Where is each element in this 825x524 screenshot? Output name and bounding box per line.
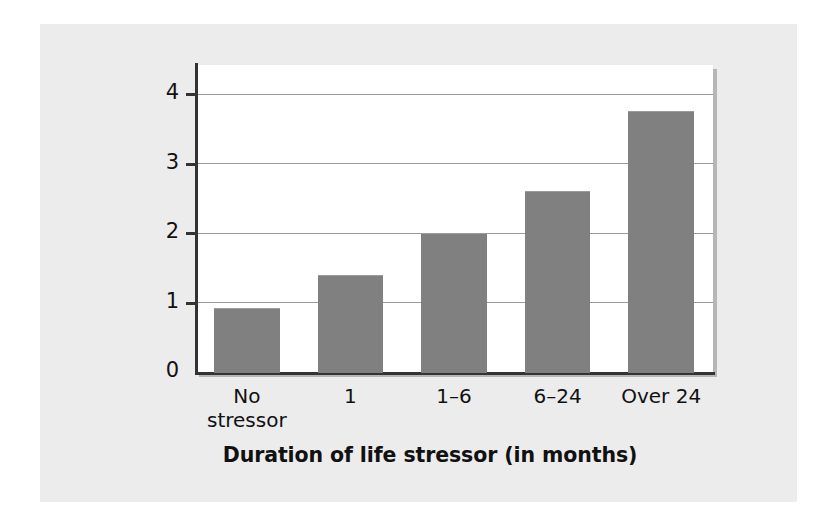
bar-1 (318, 275, 384, 373)
figure-root: 01234 Nostressor11–66–24Over 24 Relative… (0, 0, 825, 524)
x-tick-label-1: 1 (299, 385, 403, 409)
x-tick-label-2-line-0: 1–6 (402, 385, 506, 409)
y-tick-label-4: 4 (139, 80, 179, 104)
bar-3 (525, 191, 591, 373)
x-tick-label-0-line-0: No (195, 385, 299, 409)
x-tick-label-3: 6–24 (506, 385, 610, 409)
y-tick-label-2: 2 (139, 219, 179, 243)
x-tick-label-3-line-0: 6–24 (506, 385, 610, 409)
x-tick-label-0: Nostressor (195, 385, 299, 432)
x-axis-title: Duration of life stressor (in months) (150, 443, 710, 467)
y-axis-title: Relative risk of a cold (1 indicates nor… (0, 88, 5, 388)
bar-2 (421, 233, 487, 373)
y-tick-label-1: 1 (139, 289, 179, 313)
bar-0 (214, 308, 280, 373)
x-tick-label-4: Over 24 (609, 385, 713, 409)
x-tick-label-2: 1–6 (402, 385, 506, 409)
bar-4 (628, 111, 694, 373)
y-tick-label-3: 3 (139, 150, 179, 174)
y-tick-label-0: 0 (139, 358, 179, 382)
x-tick-label-0-line-1: stressor (195, 409, 299, 433)
x-tick-label-4-line-0: Over 24 (609, 385, 713, 409)
x-tick-label-1-line-0: 1 (299, 385, 403, 409)
y-axis-line (195, 63, 198, 375)
gridline-y-4 (198, 94, 713, 95)
